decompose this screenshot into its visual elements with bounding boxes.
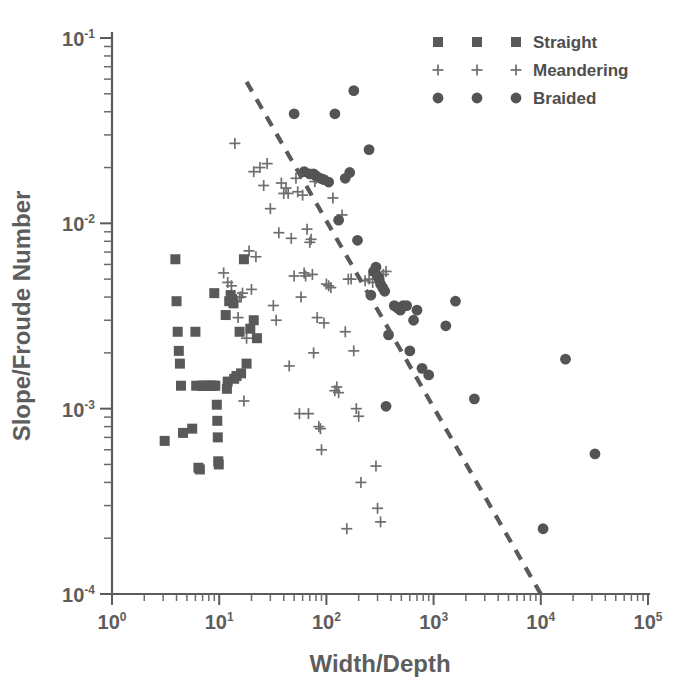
- data-point-square-legend: [511, 37, 521, 47]
- data-point-circle: [412, 305, 423, 316]
- data-point-circle: [590, 449, 601, 460]
- data-point-cross: [327, 192, 338, 203]
- x-tick-label: 100: [98, 610, 127, 633]
- data-point-cross: [307, 269, 318, 280]
- data-point-circle-legend: [511, 93, 522, 104]
- data-point-cross: [250, 251, 261, 262]
- data-point-square: [190, 327, 200, 337]
- data-point-square: [249, 315, 259, 325]
- data-point-circle: [560, 354, 571, 365]
- data-point-cross-legend: [433, 65, 444, 76]
- data-point-circle: [538, 523, 549, 534]
- data-point-cross: [312, 312, 323, 323]
- data-point-square: [174, 346, 184, 356]
- data-point-square: [210, 381, 220, 391]
- data-point-cross: [341, 523, 352, 534]
- data-point-cross: [289, 270, 300, 281]
- data-point-cross: [286, 233, 297, 244]
- data-point-circle: [379, 286, 390, 297]
- x-tick-label: 102: [312, 610, 341, 633]
- data-point-circle-legend: [433, 93, 444, 104]
- data-point-circle: [440, 320, 451, 331]
- data-point-cross: [319, 317, 330, 328]
- data-point-square: [187, 424, 197, 434]
- data-point-circle: [408, 315, 419, 326]
- data-point-cross: [229, 138, 240, 149]
- trend-line-dashed: [247, 82, 541, 594]
- data-point-cross: [340, 326, 351, 337]
- data-point-cross: [351, 403, 362, 414]
- x-tick-label: 105: [634, 610, 663, 633]
- data-point-square: [170, 254, 180, 264]
- data-point-cross: [355, 477, 366, 488]
- data-point-cross: [316, 444, 327, 455]
- data-point-cross: [346, 274, 357, 285]
- data-point-square: [209, 288, 219, 298]
- x-tick-label: 101: [205, 610, 234, 633]
- data-point-cross: [315, 423, 326, 434]
- data-point-cross: [302, 224, 313, 235]
- data-point-square: [173, 327, 183, 337]
- data-point-square: [221, 310, 231, 320]
- data-point-cross: [353, 411, 364, 422]
- data-point-square: [212, 400, 222, 410]
- data-point-square: [176, 381, 186, 391]
- data-point-cross: [348, 345, 359, 356]
- data-point-cross: [313, 421, 324, 432]
- data-point-square: [195, 464, 205, 474]
- legend-label-meandering: Meandering: [533, 61, 628, 80]
- data-point-square: [212, 416, 222, 426]
- data-point-cross: [265, 203, 276, 214]
- data-point-square: [160, 436, 170, 446]
- data-point-circle: [333, 215, 344, 226]
- data-point-circle: [423, 370, 434, 381]
- data-point-circle: [469, 393, 480, 404]
- data-point-square: [213, 432, 223, 442]
- data-point-circle: [329, 108, 340, 119]
- data-point-circle: [352, 235, 363, 246]
- data-point-cross: [308, 347, 319, 358]
- data-point-cross: [296, 292, 307, 303]
- data-point-circle: [289, 108, 300, 119]
- data-point-square-legend: [433, 37, 443, 47]
- data-point-cross: [268, 300, 279, 311]
- chart-container: 10010110210310410510-110-210-310-4Width/…: [0, 0, 683, 696]
- data-point-square: [229, 298, 239, 308]
- data-point-cross: [238, 395, 249, 406]
- data-point-cross-legend: [472, 65, 483, 76]
- data-point-circle-legend: [472, 93, 483, 104]
- data-point-cross: [303, 408, 314, 419]
- data-point-square: [178, 428, 188, 438]
- data-point-square: [252, 333, 262, 343]
- data-point-cross: [273, 227, 284, 238]
- y-tick-label: 10-1: [62, 27, 95, 50]
- data-point-circle: [344, 167, 355, 178]
- y-tick-label: 10-3: [62, 398, 95, 421]
- data-point-circle: [381, 401, 392, 412]
- legend-label-straight: Straight: [533, 33, 598, 52]
- y-axis-title: Slope/Froude Number: [8, 191, 35, 442]
- data-point-cross: [304, 237, 315, 248]
- data-point-circle: [348, 85, 359, 96]
- data-point-cross: [258, 180, 269, 191]
- data-point-square: [239, 254, 249, 264]
- y-tick-label: 10-2: [62, 212, 95, 235]
- x-tick-label: 104: [526, 610, 555, 633]
- data-point-cross: [372, 503, 383, 514]
- data-point-square: [214, 459, 224, 469]
- x-tick-label: 103: [419, 610, 448, 633]
- scatter-plot: 10010110210310410510-110-210-310-4Width/…: [0, 0, 683, 696]
- data-point-cross-legend: [511, 65, 522, 76]
- y-tick-label: 10-4: [62, 583, 95, 606]
- x-axis-title: Width/Depth: [309, 650, 450, 677]
- data-point-cross: [306, 234, 317, 245]
- data-point-square: [236, 368, 246, 378]
- data-point-square: [172, 296, 182, 306]
- data-point-square: [235, 327, 245, 337]
- data-point-cross: [284, 360, 295, 371]
- data-point-cross: [323, 280, 334, 291]
- data-point-square: [242, 359, 252, 369]
- data-point-square-legend: [472, 37, 482, 47]
- data-point-circle: [364, 144, 375, 155]
- data-point-cross: [218, 267, 229, 278]
